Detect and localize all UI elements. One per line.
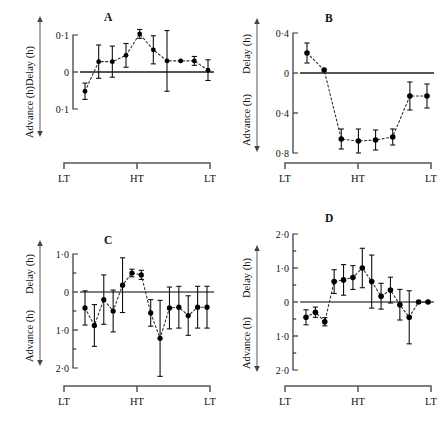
y-tick-label-a-1: 0 (64, 67, 69, 78)
axis-label-delay-c: Delay (h) (24, 254, 36, 294)
data-point (110, 59, 115, 64)
panel-c-svg: Delay (h) Advance (h) 1·0 0 1·0 2·0 C LT… (0, 214, 221, 432)
y-axis-d (293, 234, 298, 370)
data-point (378, 293, 384, 299)
y-tick-label-d-1: 1·0 (276, 263, 289, 274)
data-point (82, 305, 87, 310)
data-point (124, 53, 129, 58)
data-point (338, 136, 344, 142)
data-series-b (304, 43, 430, 153)
data-point (341, 277, 347, 283)
data-point (120, 283, 125, 288)
x-tick-label-d-0: LT (279, 396, 291, 407)
data-point (101, 297, 106, 302)
data-point (204, 305, 209, 310)
data-series-a (82, 29, 210, 99)
x-axis-c (64, 386, 210, 392)
data-point (331, 279, 337, 285)
x-tick-label-a-1: HT (130, 173, 145, 184)
delay-advance-arrow-b (254, 18, 260, 152)
x-tick-label-b-2: LT (425, 173, 437, 184)
data-point (92, 323, 97, 328)
data-point (83, 89, 88, 94)
data-point (206, 68, 211, 73)
x-tick-label-b-1: HT (351, 173, 366, 184)
panel-d-svg: Delay (h) Advance (h) 2·0 1·0 0 1·0 2·0 … (221, 205, 442, 432)
y-axis-a (73, 35, 78, 109)
y-tick-label-a-2: 0·1 (56, 104, 69, 115)
data-series-d (303, 248, 431, 344)
axis-label-delay-d: Delay (h) (241, 258, 253, 298)
y-tick-label-d-0: 2·0 (276, 229, 289, 240)
panel-label-d: D (325, 212, 333, 224)
data-point (397, 302, 403, 308)
x-tick-label-d-1: HT (351, 396, 366, 407)
data-point (303, 315, 309, 321)
axis-label-advance-c: Advance (h) (24, 309, 36, 362)
data-point (304, 50, 310, 56)
data-point (390, 134, 396, 140)
delay-advance-arrow-a (37, 16, 43, 137)
panel-label-c: C (104, 234, 112, 246)
data-point (192, 59, 197, 64)
y-tick-label-a-0: 0·1 (56, 30, 69, 41)
data-point (350, 275, 356, 281)
data-point (356, 138, 362, 144)
panel-b-svg: Delay (h) Advance (h) 0·4 0 0·4 0·8 B LT… (221, 0, 442, 210)
data-series-c (82, 258, 209, 377)
x-axis-a (64, 163, 210, 169)
data-point (111, 308, 116, 313)
axis-label-advance-a: Advance (h) (24, 85, 36, 138)
data-point (148, 310, 153, 315)
x-tick-label-d-2: LT (425, 396, 437, 407)
axis-label-advance-b: Advance (h) (241, 93, 253, 146)
axis-label-delay-a: Delay (h) (24, 46, 36, 86)
data-point (151, 47, 156, 52)
y-tick-label-b-0: 0·4 (276, 28, 289, 39)
data-point (195, 305, 200, 310)
x-tick-label-b-0: LT (279, 173, 291, 184)
data-point (388, 287, 394, 293)
y-axis-c (73, 254, 78, 368)
x-tick-label-a-0: LT (58, 173, 70, 184)
y-tick-label-b-2: 0·4 (276, 108, 289, 119)
x-axis-d (285, 386, 431, 392)
data-point (137, 31, 142, 36)
data-point (321, 67, 327, 73)
data-point (139, 272, 144, 277)
panel-b: Delay (h) Advance (h) 0·4 0 0·4 0·8 B LT… (221, 0, 442, 210)
panel-a-svg: Delay (h) Advance (h) 0·1 0 0·1 A LT HT … (0, 0, 221, 210)
data-point (313, 309, 319, 315)
delay-advance-arrow-c (37, 240, 43, 366)
y-tick-label-d-4: 2·0 (276, 365, 289, 376)
panel-d: Delay (h) Advance (h) 2·0 1·0 0 1·0 2·0 … (221, 205, 442, 432)
data-point (407, 93, 413, 99)
y-tick-label-c-0: 1·0 (56, 249, 69, 260)
panel-label-b: B (325, 12, 333, 24)
y-tick-label-d-2: 0 (284, 297, 289, 308)
delay-advance-arrow-d (254, 245, 260, 372)
data-point (369, 279, 375, 285)
panel-a: Delay (h) Advance (h) 0·1 0 0·1 A LT HT … (0, 0, 221, 210)
data-point (186, 313, 191, 318)
data-point (157, 336, 162, 341)
y-tick-label-c-2: 1·0 (56, 325, 69, 336)
y-tick-label-d-3: 1·0 (276, 331, 289, 342)
y-tick-label-b-3: 0·8 (276, 148, 289, 159)
data-point (129, 270, 134, 275)
x-tick-label-c-0: LT (58, 396, 70, 407)
x-axis-b (285, 163, 431, 169)
panel-label-a: A (104, 11, 113, 23)
data-point (424, 93, 430, 99)
data-point (322, 319, 328, 325)
x-tick-label-c-1: HT (130, 396, 145, 407)
y-axis-b (293, 33, 298, 153)
data-point (178, 59, 183, 64)
y-tick-label-c-1: 0 (64, 287, 69, 298)
data-point (373, 137, 379, 143)
data-point (165, 59, 170, 64)
y-tick-label-c-3: 2·0 (56, 363, 69, 374)
data-point (167, 305, 172, 310)
data-point (425, 299, 431, 305)
data-point (360, 265, 366, 271)
